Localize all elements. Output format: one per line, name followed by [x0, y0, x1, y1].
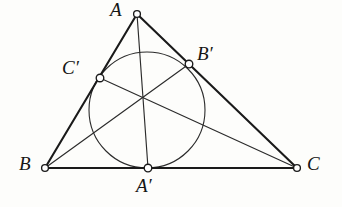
- point-label-B-prime: B′: [197, 44, 213, 63]
- cevian-A-to-A-prime: [137, 14, 148, 168]
- figure-canvas: [0, 0, 342, 207]
- point-label-B: B: [19, 154, 31, 173]
- vertex-marker-C: [294, 165, 301, 172]
- point-label-C: C: [307, 154, 320, 173]
- contact-point-marker-B-prime: [185, 60, 193, 68]
- contact-point-marker-C-prime: [96, 74, 104, 82]
- cevian-C-to-C-prime: [100, 78, 297, 168]
- contact-point-marker-A-prime: [144, 164, 152, 172]
- cevian-B-to-B-prime: [45, 64, 189, 168]
- vertex-marker-A: [134, 11, 141, 18]
- triangle-side-AC: [137, 14, 297, 168]
- point-label-A-prime: A′: [136, 176, 152, 195]
- geometry-figure: A B C A′ B′ C′: [0, 0, 342, 207]
- triangle-side-AB: [45, 14, 137, 168]
- point-label-C-prime: C′: [62, 58, 79, 77]
- point-label-A: A: [110, 0, 122, 19]
- vertex-marker-B: [42, 165, 49, 172]
